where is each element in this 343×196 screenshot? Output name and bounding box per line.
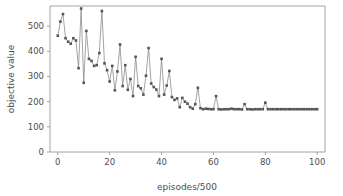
x-tick-label: 60 — [208, 157, 219, 167]
data-point-marker — [137, 85, 140, 88]
data-point-marker — [316, 108, 319, 111]
data-point-marker — [165, 84, 168, 87]
data-point-marker — [121, 85, 124, 88]
data-point-marker — [64, 37, 67, 40]
data-point-marker — [215, 95, 218, 98]
data-point-marker — [69, 42, 72, 45]
data-point-marker — [119, 43, 122, 46]
data-point-marker — [298, 108, 301, 111]
data-point-marker — [108, 80, 111, 83]
x-tick-labels: 020406080100 — [55, 157, 325, 167]
data-point-marker — [259, 108, 262, 111]
data-point-marker — [132, 95, 135, 98]
data-point-marker — [150, 82, 153, 85]
data-point-marker — [287, 108, 290, 111]
data-point-marker — [303, 108, 306, 111]
data-point-marker — [280, 108, 283, 111]
data-point-marker — [269, 108, 272, 111]
data-point-marker — [186, 102, 189, 105]
data-point-marker — [202, 108, 205, 111]
x-tick-label: 100 — [309, 157, 325, 167]
figure-canvas: 020406080100 0100200300400500 episodes/5… — [0, 0, 343, 196]
data-point-marker — [204, 107, 207, 110]
data-point-marker — [152, 86, 155, 89]
y-tick-label: 0 — [39, 147, 44, 157]
x-axis-title: episodes/500 — [157, 182, 217, 192]
data-point-marker — [199, 107, 202, 110]
data-point-marker — [241, 108, 244, 111]
y-tick-label: 400 — [28, 46, 44, 56]
x-tick-label: 20 — [104, 157, 115, 167]
data-point-marker — [75, 39, 78, 42]
data-point-marker — [228, 108, 231, 111]
data-point-marker — [124, 64, 127, 67]
data-point-marker — [272, 108, 275, 111]
data-point-marker — [223, 108, 226, 111]
data-point-marker — [98, 52, 101, 55]
data-point-marker — [248, 108, 251, 111]
data-point-marker — [176, 97, 179, 100]
data-point-marker — [127, 89, 130, 92]
data-point-marker — [308, 108, 311, 111]
data-point-marker — [147, 47, 150, 50]
data-point-marker — [95, 64, 98, 67]
x-tick-label: 40 — [156, 157, 167, 167]
data-point-marker — [82, 81, 85, 84]
x-tick-label: 80 — [260, 157, 271, 167]
data-point-marker — [171, 96, 174, 99]
data-point-marker — [178, 106, 181, 109]
data-point-marker — [300, 108, 303, 111]
data-point-marker — [67, 40, 70, 43]
data-point-marker — [274, 108, 277, 111]
data-point-marker — [251, 108, 254, 111]
data-point-marker — [62, 13, 65, 16]
data-point-marker — [163, 93, 166, 96]
data-point-marker — [80, 7, 83, 10]
data-point-marker — [230, 107, 233, 110]
data-point-marker — [184, 100, 187, 103]
data-point-marker — [59, 20, 62, 23]
data-point-marker — [103, 62, 106, 65]
data-point-marker — [264, 101, 267, 104]
data-point-marker — [267, 108, 270, 111]
data-point-marker — [233, 108, 236, 111]
data-point-marker — [72, 37, 75, 40]
y-tick-label: 500 — [28, 21, 44, 31]
data-point-marker — [282, 108, 285, 111]
data-point-marker — [101, 10, 104, 13]
data-point-marker — [56, 34, 59, 37]
data-point-marker — [114, 89, 117, 92]
data-point-marker — [77, 67, 80, 70]
data-point-marker — [168, 70, 171, 73]
data-point-marker — [142, 93, 145, 96]
y-tick-label: 100 — [28, 122, 44, 132]
data-point-marker — [243, 103, 246, 106]
x-tick-label: 0 — [55, 157, 60, 167]
data-point-marker — [145, 74, 148, 77]
chart-plot: 020406080100 0100200300400500 episodes/5… — [0, 0, 343, 196]
data-point-marker — [173, 99, 176, 102]
data-point-marker — [140, 87, 143, 90]
data-point-marker — [85, 30, 88, 33]
data-point-marker — [111, 65, 114, 68]
data-point-marker — [261, 108, 264, 111]
data-point-marker — [212, 108, 215, 111]
data-point-marker — [116, 70, 119, 73]
data-point-marker — [189, 106, 192, 109]
data-point-marker — [155, 88, 158, 91]
data-point-marker — [293, 108, 296, 111]
data-point-marker — [129, 78, 132, 81]
data-point-marker — [220, 108, 223, 111]
data-point-marker — [295, 108, 298, 111]
data-point-marker — [194, 103, 197, 106]
data-point-marker — [106, 69, 109, 72]
data-point-marker — [306, 108, 309, 111]
y-axis-title: objective value — [6, 44, 16, 113]
data-point-marker — [225, 108, 228, 111]
data-point-marker — [217, 108, 220, 111]
y-tick-labels: 0100200300400500 — [28, 21, 44, 157]
data-point-marker — [313, 108, 316, 111]
data-point-marker — [88, 58, 91, 61]
data-point-marker — [290, 108, 293, 111]
data-point-marker — [207, 108, 210, 111]
